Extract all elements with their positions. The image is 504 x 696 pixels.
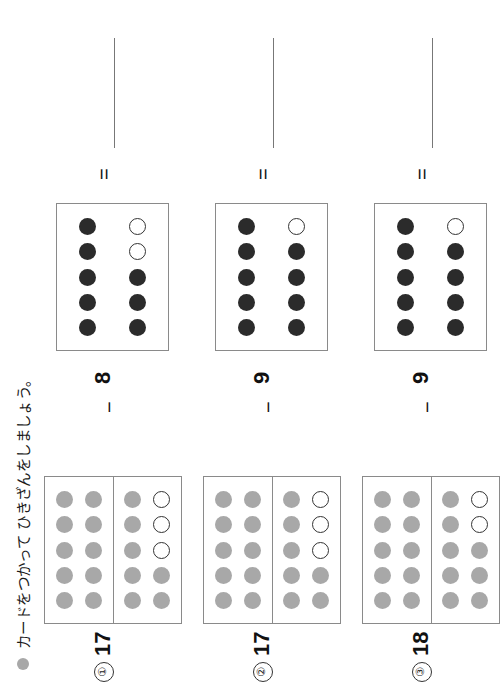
subtrahend-card (215, 203, 328, 351)
dot-filled (124, 542, 141, 559)
dot-empty (153, 542, 170, 559)
dot-filled (79, 294, 96, 311)
problem-index-badge: ② (253, 662, 273, 682)
dot-filled (374, 491, 391, 508)
dot-filled (238, 319, 255, 336)
dot-filled (403, 542, 420, 559)
dot-filled (442, 516, 459, 533)
dot-filled (215, 567, 232, 584)
dot-filled (403, 491, 420, 508)
dot-filled (79, 243, 96, 260)
dot-grid (45, 477, 113, 623)
dot-filled (374, 516, 391, 533)
dot-filled (283, 516, 300, 533)
answer-blank-line[interactable] (432, 38, 433, 148)
dot-filled (447, 319, 464, 336)
dot-empty (129, 218, 146, 235)
dot-filled (79, 269, 96, 286)
dot-filled (442, 542, 459, 559)
page-title: カードをつかって ひきざんをしましょう。 (12, 372, 33, 670)
dot-filled (442, 567, 459, 584)
dot-grid (216, 204, 327, 350)
dot-empty (471, 516, 488, 533)
tens-frame (45, 477, 113, 623)
dot-filled (79, 218, 96, 235)
equals-operator: = (411, 168, 434, 180)
page-title-text: カードをつかって ひきざんをしましょう。 (12, 372, 33, 649)
minuend-card (203, 476, 341, 624)
dot-filled (397, 319, 414, 336)
minus-operator: − (257, 401, 280, 413)
answer-blank-line[interactable] (273, 38, 274, 148)
dot-empty (153, 516, 170, 533)
dot-filled (447, 243, 464, 260)
dot-filled (244, 592, 261, 609)
dot-filled (153, 567, 170, 584)
dot-grid (273, 477, 341, 623)
problem-row: ①17−8= (38, 0, 188, 696)
dot-filled (215, 516, 232, 533)
dot-filled (283, 567, 300, 584)
dot-filled (397, 243, 414, 260)
dot-filled (403, 567, 420, 584)
dot-grid (432, 477, 500, 623)
dot-filled (283, 491, 300, 508)
minuend-card (362, 476, 500, 624)
dot-filled (56, 516, 73, 533)
dot-grid (57, 204, 168, 350)
dot-empty (312, 542, 329, 559)
dot-filled (85, 491, 102, 508)
subtrahend-label: 9 (249, 372, 275, 384)
dot-filled (129, 319, 146, 336)
subtrahend-card (374, 203, 487, 351)
dot-empty (447, 218, 464, 235)
ones-frame (272, 477, 341, 623)
subtrahend-frame (375, 204, 486, 350)
dot-filled (79, 319, 96, 336)
dot-filled (85, 542, 102, 559)
dot-empty (153, 491, 170, 508)
problem-index-badge: ③ (412, 662, 432, 682)
problem-index-badge: ① (94, 662, 114, 682)
dot-filled (288, 269, 305, 286)
dot-filled (215, 542, 232, 559)
ones-frame (113, 477, 182, 623)
minus-operator: − (416, 401, 439, 413)
dot-filled (397, 294, 414, 311)
dot-filled (238, 294, 255, 311)
dot-filled (442, 592, 459, 609)
dot-filled (85, 567, 102, 584)
dot-empty (312, 491, 329, 508)
minuend-card (44, 476, 182, 624)
dot-empty (288, 218, 305, 235)
dot-filled (56, 542, 73, 559)
dot-filled (124, 491, 141, 508)
answer-blank-line[interactable] (114, 38, 115, 148)
dot-filled (403, 592, 420, 609)
dot-filled (85, 516, 102, 533)
dot-filled (129, 269, 146, 286)
dot-filled (403, 516, 420, 533)
dot-filled (238, 243, 255, 260)
tens-frame (204, 477, 272, 623)
dot-filled (312, 567, 329, 584)
subtrahend-frame (216, 204, 327, 350)
dot-filled (288, 319, 305, 336)
dot-grid (375, 204, 486, 350)
subtrahend-card (56, 203, 169, 351)
dot-filled (215, 592, 232, 609)
dot-filled (397, 269, 414, 286)
dot-filled (215, 491, 232, 508)
dot-filled (244, 567, 261, 584)
dot-filled (447, 294, 464, 311)
dot-filled (397, 218, 414, 235)
dot-filled (374, 542, 391, 559)
dot-filled (124, 592, 141, 609)
filled-circle-icon (17, 658, 29, 670)
dot-filled (471, 567, 488, 584)
dot-empty (129, 243, 146, 260)
dot-filled (374, 592, 391, 609)
problem-row: ③18−9= (356, 0, 504, 696)
